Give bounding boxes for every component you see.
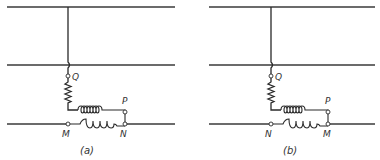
vertical-lead [68,7,70,74]
terminal-n [123,122,127,126]
label-n: N [265,129,272,139]
label-m: M [62,129,70,139]
terminal-n [269,122,273,126]
terminal-m [326,122,330,126]
terminal-q [269,74,273,78]
line-coil [68,119,125,128]
terminal-p [326,110,330,114]
panel-a: Q P M N (a) [7,7,175,156]
resistor-zigzag [268,78,281,110]
label-q: Q [275,72,282,82]
circuit-figure: Q P M N (a) Q P N M (b) [0,0,380,160]
label-m: M [323,129,331,139]
caption-a: (a) [80,145,94,156]
resistor-zigzag [65,78,78,110]
vertical-lead [271,7,273,74]
terminal-p [123,110,127,114]
label-n: N [120,129,127,139]
label-p: P [122,96,128,106]
terminal-q [66,74,70,78]
panel-b: Q P N M (b) [209,7,375,156]
terminal-m [66,122,70,126]
label-p: P [325,96,331,106]
caption-b: (b) [283,145,297,156]
line-coil [271,119,328,128]
label-q: Q [72,72,79,82]
